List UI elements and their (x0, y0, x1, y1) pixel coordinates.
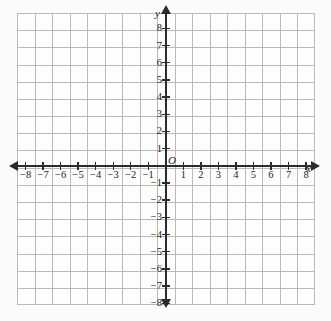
x-axis-tick-label: 4 (233, 170, 238, 181)
coordinate-plane-figure: −8−7−6−5−4−3−2−11234567887654321−1−2−3−4… (0, 0, 331, 321)
y-axis-tick-label: −8 (140, 298, 162, 309)
y-axis-tick (162, 114, 170, 115)
x-axis-label: x (306, 163, 311, 174)
x-axis-tick-label: −6 (55, 170, 66, 181)
x-axis-tick-label: 5 (251, 170, 256, 181)
y-axis-arrow-up-icon (161, 5, 171, 14)
y-axis-tick-label: −4 (140, 229, 162, 240)
y-axis-line (165, 10, 167, 306)
x-axis-tick-label: 3 (216, 170, 221, 181)
x-axis-tick-label: −8 (20, 170, 31, 181)
y-axis-tick (162, 148, 170, 149)
y-axis-tick (162, 234, 170, 235)
x-axis-tick-label: −5 (73, 170, 84, 181)
y-axis-tick-label: 1 (140, 143, 162, 154)
y-axis-tick-label: −7 (140, 281, 162, 292)
y-axis-label: y (155, 8, 160, 19)
y-axis-tick-label: 6 (140, 57, 162, 68)
x-axis-tick-label: −3 (108, 170, 119, 181)
y-axis-tick-label: 3 (140, 109, 162, 120)
y-axis-tick (162, 45, 170, 46)
y-axis-tick-label: 8 (140, 23, 162, 34)
y-axis-tick (162, 79, 170, 80)
y-axis-tick (162, 131, 170, 132)
x-axis-tick-label: 2 (198, 170, 203, 181)
y-axis-tick-label: −3 (140, 212, 162, 223)
y-axis-tick (162, 199, 170, 200)
x-axis-tick-label: −2 (125, 170, 136, 181)
y-axis-tick-label: −5 (140, 246, 162, 257)
y-axis-tick-label: 7 (140, 40, 162, 51)
y-axis-tick-label: 5 (140, 75, 162, 86)
y-axis-tick (162, 182, 170, 183)
y-axis-tick (162, 303, 170, 304)
y-axis-tick (162, 28, 170, 29)
y-axis-tick (162, 251, 170, 252)
x-axis-arrow-right-icon (311, 161, 320, 171)
grid-right-border (314, 13, 315, 305)
x-axis-tick-label: −7 (37, 170, 48, 181)
x-axis-tick-label: 7 (286, 170, 291, 181)
y-axis-tick (162, 217, 170, 218)
y-axis-tick-label: −6 (140, 264, 162, 275)
y-axis-tick (162, 268, 170, 269)
y-axis-tick (162, 62, 170, 63)
y-axis-tick-label: −1 (140, 178, 162, 189)
x-axis-tick-label: 1 (181, 170, 186, 181)
x-axis-tick-label: 6 (268, 170, 273, 181)
origin-label: O (168, 155, 176, 166)
x-axis-arrow-left-icon (9, 161, 18, 171)
y-axis-tick-label: 2 (140, 126, 162, 137)
y-axis-tick-label: 4 (140, 92, 162, 103)
x-axis-tick-label: −4 (90, 170, 101, 181)
y-axis-tick-label: −2 (140, 195, 162, 206)
y-axis-tick (162, 285, 170, 286)
y-axis-tick (162, 96, 170, 97)
